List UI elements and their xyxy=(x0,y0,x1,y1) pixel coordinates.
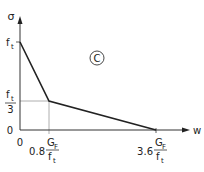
x-axis-arrow-icon xyxy=(182,128,190,133)
x-tick2-den: f xyxy=(156,151,160,162)
origin-y-label: 0 xyxy=(7,125,13,136)
panel-marker-label: C xyxy=(94,53,101,64)
diagram-canvas: C σ w f t f t 3 0 0 0.8 G F f t 3.6 G F … xyxy=(0,0,204,172)
x-tick1-coef: 0.8 xyxy=(29,146,45,157)
y-axis-label: σ xyxy=(8,10,15,23)
y-tick-ft3-sub: t xyxy=(11,95,14,103)
x-tick1-den-sub: t xyxy=(53,157,56,165)
y-axis-arrow-icon xyxy=(18,16,23,24)
x-tick2-den-sub: t xyxy=(161,157,164,165)
x-tick1-den: f xyxy=(48,151,52,162)
y-tick-ft3-f: f xyxy=(6,89,10,100)
x-axis-label: w xyxy=(193,125,201,136)
y-tick-ft-sub: t xyxy=(11,43,14,51)
y-tick-ft-f: f xyxy=(6,37,10,48)
x-tick2-coef: 3.6 xyxy=(137,146,153,157)
y-tick-ft3-den: 3 xyxy=(7,104,13,115)
softening-curve xyxy=(20,42,156,130)
origin-x-label: 0 xyxy=(17,137,23,148)
softening-diagram: C σ w f t f t 3 0 0 0.8 G F f t 3.6 G F … xyxy=(0,0,204,172)
